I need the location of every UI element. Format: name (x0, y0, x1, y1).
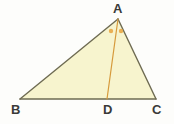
vertex-label-c: C (152, 103, 161, 116)
vertex-label-b: B (11, 103, 20, 116)
angle-dac-marker-icon (119, 29, 123, 33)
vertex-label-d: D (103, 103, 112, 116)
triangle-diagram-svg (0, 0, 174, 124)
triangle-fill (20, 19, 156, 99)
geometry-figure: A B D C (0, 0, 174, 124)
vertex-label-a: A (113, 2, 122, 15)
angle-bad-marker-icon (109, 29, 113, 33)
